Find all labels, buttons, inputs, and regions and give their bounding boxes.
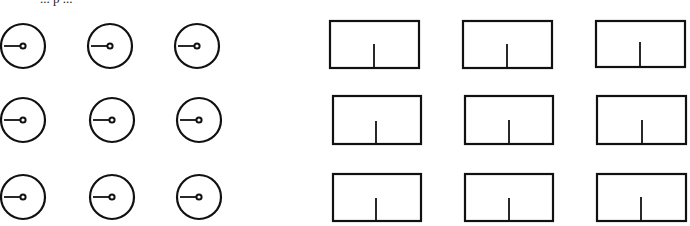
circular-dial <box>177 175 221 219</box>
rectangular-gauge <box>463 21 552 68</box>
circular-dial <box>1 98 45 142</box>
rectangular-gauge <box>597 96 686 144</box>
circular-dial <box>88 24 132 68</box>
circular-dial-grid <box>1 24 221 219</box>
dial-pivot-icon <box>196 194 201 199</box>
dial-pivot-icon <box>109 194 114 199</box>
gauge-frame-icon <box>333 96 421 144</box>
circular-dial <box>90 98 134 142</box>
dial-pivot-icon <box>107 43 112 48</box>
rectangular-gauge <box>465 96 553 144</box>
rectangular-gauge <box>597 174 686 221</box>
circular-dial <box>1 175 45 219</box>
circular-dial <box>1 24 45 68</box>
dial-pivot-icon <box>109 117 114 122</box>
dial-pivot-icon <box>196 117 201 122</box>
circular-dial <box>90 175 134 219</box>
rectangular-gauge <box>596 21 685 67</box>
dial-gauge-diagram <box>0 0 690 226</box>
circular-dial <box>177 98 221 142</box>
dial-pivot-icon <box>20 117 25 122</box>
rectangular-gauge <box>330 21 419 68</box>
rectangular-gauge-grid <box>330 21 686 221</box>
dial-pivot-icon <box>194 43 199 48</box>
rectangular-gauge <box>333 96 421 144</box>
rectangular-gauge <box>333 174 421 221</box>
dial-pivot-icon <box>20 194 25 199</box>
gauge-frame-icon <box>333 174 421 221</box>
dial-pivot-icon <box>20 43 25 48</box>
rectangular-gauge <box>465 174 553 221</box>
circular-dial <box>175 24 219 68</box>
